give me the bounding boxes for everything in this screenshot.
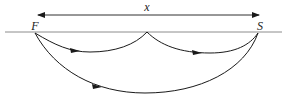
deep-ray-path bbox=[35, 33, 258, 93]
first-bounce-path bbox=[35, 32, 147, 52]
distance-label: x bbox=[143, 0, 150, 14]
source-label-f: F bbox=[30, 19, 39, 33]
second-bounce-path bbox=[147, 32, 258, 53]
ray-path-diagram: x F S bbox=[0, 0, 295, 101]
receiver-label-s: S bbox=[257, 19, 263, 33]
first-bounce-arrow-icon bbox=[70, 48, 80, 53]
